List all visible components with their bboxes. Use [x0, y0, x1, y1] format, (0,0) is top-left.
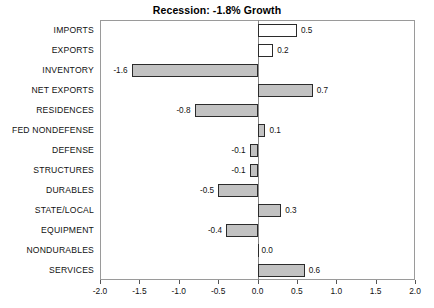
bar-value-label: 0.0 [262, 244, 306, 257]
bar-value-label: 0.7 [317, 84, 361, 97]
x-tick-label: 0.5 [277, 286, 317, 296]
bar-row: INVENTORY-1.6 [0, 60, 434, 80]
bar-imports[interactable] [258, 24, 297, 37]
bar-value-label: 0.1 [269, 124, 313, 137]
category-label-defense: DEFENSE [0, 140, 94, 160]
bar-row: DEFENSE-0.1 [0, 140, 434, 160]
bar-row: NONDURABLES0.0 [0, 240, 434, 260]
category-label-residences: RESIDENCES [0, 100, 94, 120]
x-tick-label: 0.0 [238, 286, 278, 296]
category-label-fed-nondefense: FED NONDEFENSE [0, 120, 94, 140]
bar-row: IMPORTS0.5 [0, 20, 434, 40]
bar-exports[interactable] [258, 44, 274, 57]
x-tick-label: -2.0 [80, 286, 120, 296]
category-label-exports: EXPORTS [0, 40, 94, 60]
x-tick-label: 1.0 [316, 286, 356, 296]
chart-title: Recession: -1.8% Growth [0, 4, 434, 16]
bar-defense[interactable] [250, 144, 258, 157]
x-tick-mark [258, 280, 259, 284]
category-label-durables: DURABLES [0, 180, 94, 200]
bar-equipment[interactable] [226, 224, 258, 237]
chart-root: Recession: -1.8% Growth IMPORTS0.5EXPORT… [0, 0, 434, 308]
x-tick-label: -1.5 [119, 286, 159, 296]
bar-residences[interactable] [195, 104, 258, 117]
bar-row: EQUIPMENT-0.4 [0, 220, 434, 240]
bar-inventory[interactable] [132, 64, 258, 77]
bar-services[interactable] [258, 264, 305, 277]
category-label-structures: STRUCTURES [0, 160, 94, 180]
x-tick-mark [179, 280, 180, 284]
bar-structures[interactable] [250, 164, 258, 177]
x-tick-mark [100, 280, 101, 284]
bar-value-label: -0.8 [147, 104, 191, 117]
category-label-inventory: INVENTORY [0, 60, 94, 80]
bar-row: EXPORTS0.2 [0, 40, 434, 60]
bar-row: DURABLES-0.5 [0, 180, 434, 200]
x-tick-mark [376, 280, 377, 284]
bar-value-label: -0.1 [202, 144, 246, 157]
category-label-nondurables: NONDURABLES [0, 240, 94, 260]
bar-row: RESIDENCES-0.8 [0, 100, 434, 120]
x-tick-label: 1.5 [356, 286, 396, 296]
bar-value-label: 0.5 [301, 24, 345, 37]
x-tick-label: -0.5 [198, 286, 238, 296]
x-tick-mark [415, 280, 416, 284]
bar-nondurables[interactable] [258, 244, 259, 257]
x-tick-mark [297, 280, 298, 284]
bar-row: NET EXPORTS0.7 [0, 80, 434, 100]
bar-net-exports[interactable] [258, 84, 313, 97]
bar-row: STATE/LOCAL0.3 [0, 200, 434, 220]
bar-rows-container: IMPORTS0.5EXPORTS0.2INVENTORY-1.6NET EXP… [0, 20, 434, 280]
x-tick-mark [218, 280, 219, 284]
bar-value-label: -0.1 [202, 164, 246, 177]
bar-value-label: -0.5 [170, 184, 214, 197]
bar-value-label: 0.2 [277, 44, 321, 57]
bar-value-label: -1.6 [84, 64, 128, 77]
category-label-net-exports: NET EXPORTS [0, 80, 94, 100]
x-tick-label: -1.0 [159, 286, 199, 296]
x-tick-mark [336, 280, 337, 284]
bar-row: STRUCTURES-0.1 [0, 160, 434, 180]
category-label-state-local: STATE/LOCAL [0, 200, 94, 220]
x-tick-label: 2.0 [395, 286, 434, 296]
bar-fed-nondefense[interactable] [258, 124, 266, 137]
x-axis: -2.0-1.5-1.0-0.50.00.51.01.52.0 [0, 280, 434, 308]
bar-row: FED NONDEFENSE0.1 [0, 120, 434, 140]
category-label-services: SERVICES [0, 260, 94, 280]
bar-value-label: 0.3 [285, 204, 329, 217]
bar-row: SERVICES0.6 [0, 260, 434, 280]
bar-value-label: -0.4 [178, 224, 222, 237]
category-label-equipment: EQUIPMENT [0, 220, 94, 240]
bar-state-local[interactable] [258, 204, 282, 217]
bar-durables[interactable] [218, 184, 257, 197]
category-label-imports: IMPORTS [0, 20, 94, 40]
bar-value-label: 0.6 [309, 264, 353, 277]
x-tick-mark [139, 280, 140, 284]
